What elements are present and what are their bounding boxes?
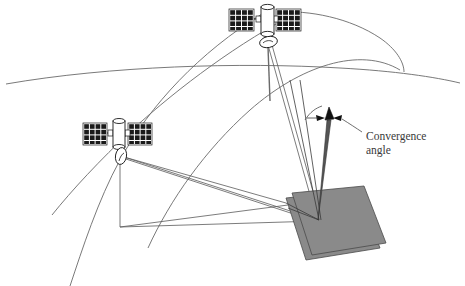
satellite-left-panel-right <box>128 123 152 145</box>
diagram-root: Convergence angle <box>0 0 465 286</box>
satellite-top-body-base <box>261 31 274 36</box>
satellite-top-panel-left <box>229 9 254 31</box>
diagram-background <box>0 0 465 286</box>
convergence-angle-label-line2: angle <box>366 144 391 157</box>
convergence-angle-label-line1: Convergence <box>366 130 426 143</box>
satellite-top-body <box>261 7 274 34</box>
satellite-left-body-cap <box>113 119 125 124</box>
convergence-angle-diagram: Convergence angle <box>0 0 465 286</box>
satellite-left-body <box>113 121 125 147</box>
satellite-left-joint-left <box>108 130 113 136</box>
satellite-left-joint-right <box>125 130 130 136</box>
satellite-top-joint-left <box>256 16 261 22</box>
satellite-top-body-cap <box>261 4 274 9</box>
satellite-top-panel-right <box>276 9 301 31</box>
satellite-left-panel-left <box>83 123 107 145</box>
